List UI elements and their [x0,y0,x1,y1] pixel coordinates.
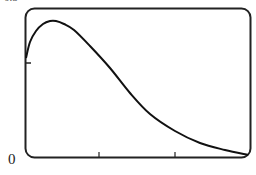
chart: 0.5 0 [0,0,256,175]
data-curve [26,21,248,155]
plot-frame [26,9,251,158]
top-axis-label: 0.5 [4,0,18,3]
origin-label: 0 [8,152,16,167]
chart-svg [0,0,256,175]
